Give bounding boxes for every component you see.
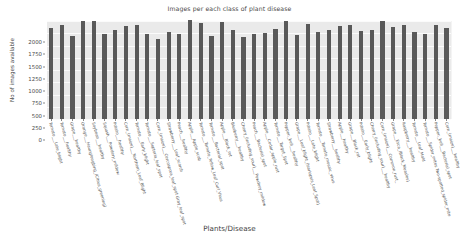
bar — [338, 26, 342, 119]
y-tick-label: 750 — [32, 100, 42, 106]
x-tick-label-slot: Potato___Early_blight — [359, 122, 363, 217]
x-tick-label-slot: Tomato___Spider_mites Two-spotted_spider… — [423, 122, 427, 217]
bar — [380, 21, 384, 119]
bar — [327, 30, 331, 119]
bar — [199, 23, 203, 119]
y-tick-label: 1750 — [28, 51, 42, 57]
bar — [60, 25, 64, 119]
x-tick-label-slot: Tomato___Late_blight — [49, 122, 53, 217]
y-tick-label: 0 — [39, 137, 42, 143]
x-tick-label-slot: Tomato___Leaf_Mold — [412, 122, 416, 217]
bar — [306, 24, 310, 119]
x-tick-label-slot: Corn_(maize)___healthy — [444, 122, 448, 217]
y-tick-label: 2000 — [28, 39, 42, 45]
x-tick-label-slot: Apple___Black_rot — [220, 122, 224, 217]
bar — [92, 21, 96, 119]
y-tick-mark — [43, 54, 45, 55]
y-tick-label: 1000 — [28, 88, 42, 94]
x-tick-label-slot: Corn_(maize)___Northern_Leaf_Blight — [124, 122, 128, 217]
y-axis-label: No of images available — [9, 24, 15, 116]
bar — [444, 28, 448, 119]
x-tick-label-slot: Grape___healthy — [70, 122, 74, 217]
bar — [177, 34, 181, 119]
y-tick-mark — [43, 78, 45, 79]
bar — [402, 25, 406, 119]
x-tick-label-slot: Cherry_(including_sour)___healthy — [370, 122, 374, 217]
bar-series — [47, 21, 451, 119]
chart-title: Images per each class of plant disease — [0, 5, 459, 12]
x-tick-label-slot: Squash___Powdery_mildew — [102, 122, 106, 217]
plot-area — [47, 21, 452, 119]
bar — [295, 35, 299, 119]
x-tick-label-slot: Strawberry___healthy — [327, 122, 331, 217]
x-tick-label-slot: Corn_(maize)___Cercospora_leaf_spot Gray… — [156, 122, 160, 217]
y-tick-mark — [43, 140, 45, 141]
bar — [252, 34, 256, 119]
x-tick-label-slot: Blueberry___healthy — [231, 122, 235, 217]
x-tick-label-slot: Corn_(maize)___Common_rust_ — [380, 122, 384, 217]
bar — [188, 20, 192, 119]
bar — [263, 33, 267, 119]
x-tick-label-slot: Peach___healthy — [177, 122, 181, 217]
x-tick-label: Corn_(maize)___healthy — [444, 121, 461, 168]
bar — [49, 28, 53, 119]
bar — [316, 32, 320, 119]
x-tick-label-slot: Pepper,_bell___Bacterial_spot — [434, 122, 438, 217]
y-tick-label: 500 — [32, 113, 42, 119]
x-tick-label-slot: Potato___Late_blight — [306, 122, 310, 217]
bar — [359, 31, 363, 119]
bar — [241, 37, 245, 119]
x-tick-label-slot: Orange___Haunglongbing_(Citrus_greening) — [81, 122, 85, 217]
x-tick-label-slot: Tomato___healthy — [60, 122, 64, 217]
bar — [370, 30, 374, 119]
bar — [423, 34, 427, 119]
x-tick-label-slot: Strawberry___Leaf_scorch — [167, 122, 171, 217]
bar — [412, 32, 416, 119]
x-tick-label-slot: Soybean___healthy — [92, 122, 96, 217]
bar — [391, 27, 395, 120]
bar — [102, 34, 106, 119]
y-tick-mark — [43, 103, 45, 104]
x-tick-label-slot: Apple___Cedar_apple_rust — [263, 122, 267, 217]
y-tick-mark — [43, 115, 45, 116]
x-tick-label-slot: Apple___healthy — [338, 122, 342, 217]
y-tick-label: 1250 — [28, 76, 42, 82]
bar — [156, 39, 160, 119]
x-tick-label-slot: Tomato___Septoria_leaf_spot — [145, 122, 149, 217]
x-tick-label-slot: Cherry_(including_sour)___Powdery_mildew — [241, 122, 245, 217]
y-tick-mark — [43, 91, 45, 92]
x-tick-label-slot: Grape___Leaf_blight_(Isariopsis_Leaf_Spo… — [295, 122, 299, 217]
x-tick-label-slot: Tomato___Target_Spot — [273, 122, 277, 217]
x-tick-label-slot: Tomato___Tomato_mosaic_virus — [316, 122, 320, 217]
bar — [231, 30, 235, 119]
x-tick-label-slot: Pepper,_bell___healthy — [284, 122, 288, 217]
bar — [348, 25, 352, 119]
bar — [81, 21, 85, 119]
y-tick-mark — [43, 66, 45, 67]
bar — [113, 30, 117, 119]
bar — [145, 34, 149, 120]
bar — [220, 22, 224, 119]
y-axis: No of images available 02505007501000125… — [0, 21, 45, 119]
x-tick-label-slot: Peach___Bacterial_spot — [252, 122, 256, 217]
y-tick-label: 1500 — [28, 64, 42, 70]
bar — [273, 29, 277, 119]
x-tick-label-slot: Grape___Esca_(Black_Measles) — [391, 122, 395, 217]
bar — [284, 21, 288, 119]
bar — [135, 25, 139, 119]
bar — [124, 26, 128, 119]
x-tick-label-slot: Raspberry___healthy — [402, 122, 406, 217]
x-tick-label-slot: Grape___Black_rot — [348, 122, 352, 217]
bar — [70, 36, 74, 119]
y-tick-mark — [43, 42, 45, 43]
x-tick-label-slot: Tomato___Tomato_Yellow_Leaf_Curl_Virus — [199, 122, 203, 217]
y-tick-label: 250 — [32, 125, 42, 131]
x-axis-label: Plants/Disease — [0, 224, 459, 233]
x-tick-label-slot: Tomato___Early_blight — [135, 122, 139, 217]
bar — [167, 32, 171, 119]
x-axis-ticks — [47, 119, 451, 121]
bar — [209, 36, 213, 119]
x-tick-label-slot: Apple___Apple_scab — [188, 122, 192, 217]
bar — [434, 25, 438, 119]
x-tick-label-slot: Potato___healthy — [113, 122, 117, 217]
